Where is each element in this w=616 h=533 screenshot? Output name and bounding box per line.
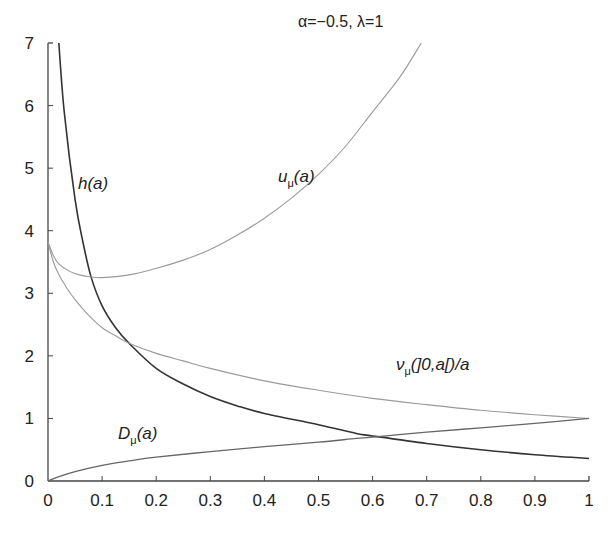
x-tick-label: 0.7 <box>415 491 439 510</box>
curve-labels: h(a)uμ(a)νμ(]0,a[)/aDμ(a) <box>78 167 469 446</box>
x-tick-label: 0 <box>43 491 52 510</box>
series-label: uμ(a) <box>278 167 315 189</box>
y-tick-label: 6 <box>25 97 34 116</box>
series-curve <box>59 43 589 458</box>
x-tick-label: 0.9 <box>523 491 547 510</box>
series-label: Dμ(a) <box>118 424 157 446</box>
curves <box>48 43 589 481</box>
series-label: νμ(]0,a[)/a <box>396 355 469 377</box>
x-tick-label: 0.2 <box>144 491 168 510</box>
axes: 00.10.20.30.40.50.60.70.80.9101234567 <box>25 34 594 510</box>
series-curve <box>48 43 421 278</box>
y-tick-label: 5 <box>25 159 34 178</box>
y-tick-label: 0 <box>25 472 34 491</box>
y-tick-label: 1 <box>25 409 34 428</box>
chart-title: α=−0.5, λ=1 <box>298 13 383 30</box>
x-tick-label: 0.4 <box>253 491 277 510</box>
y-tick-label: 4 <box>25 222 34 241</box>
y-tick-label: 2 <box>25 347 34 366</box>
x-tick-label: 0.6 <box>361 491 385 510</box>
y-tick-label: 3 <box>25 284 34 303</box>
x-tick-label: 1 <box>584 491 593 510</box>
y-tick-label: 7 <box>25 34 34 53</box>
x-tick-label: 0.8 <box>469 491 493 510</box>
series-label: h(a) <box>78 174 108 193</box>
line-chart: 00.10.20.30.40.50.60.70.80.9101234567 h(… <box>0 0 616 533</box>
x-tick-label: 0.5 <box>307 491 331 510</box>
x-tick-label: 0.3 <box>198 491 222 510</box>
x-tick-label: 0.1 <box>90 491 114 510</box>
series-curve <box>48 242 589 418</box>
